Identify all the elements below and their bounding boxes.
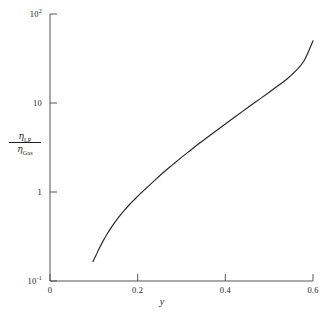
x-tick-label-0p2: 0.2 [123,285,153,295]
y-tick-label-100: 102 [2,9,42,19]
x-axis-label: y [0,296,324,307]
x-tick-label-0p4: 0.4 [210,285,240,295]
y-tick-label-1: 1 [2,187,42,197]
y-axis-label-numerator: ηLP [4,132,46,142]
figure-container: 102 10 1 10-1 0 0.2 0.4 0.6 ηLP ηGas y [0,0,324,320]
eta-subscript-numerator: LP [24,136,31,143]
y-tick-label-10: 10 [2,98,42,108]
plot-area [0,0,324,320]
eta-subscript-denominator: Gas [23,149,33,156]
x-tick-label-0: 0 [35,285,65,295]
y-axis-label-denominator: ηGas [4,144,46,154]
x-tick-label-0p6: 0.6 [298,285,324,295]
y-axis-label: ηLP ηGas [4,132,46,155]
data-curve [93,41,313,262]
